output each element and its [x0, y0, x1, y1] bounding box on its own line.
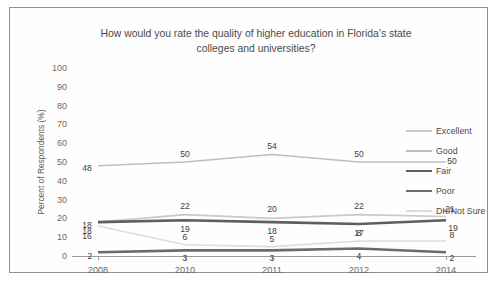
data-label: 2 — [88, 251, 93, 261]
data-label: 48 — [82, 163, 92, 173]
legend-swatch — [406, 150, 432, 152]
series-line-fair — [98, 220, 446, 224]
legend-label: DK/Not Sure — [436, 206, 485, 216]
legend-swatch — [406, 170, 432, 172]
data-label: 3 — [183, 253, 188, 263]
chart-title-line-1: How would you rate the quality of higher… — [58, 26, 454, 41]
chart-title: How would you rate the quality of higher… — [58, 26, 454, 56]
y-axis-tick: 0 — [62, 251, 67, 261]
series-line-good — [98, 154, 446, 165]
data-label: 22 — [354, 201, 364, 211]
x-axis-tickmark — [98, 256, 99, 260]
chart-legend: ExcellentGoodFairPoorDK/Not Sure — [406, 121, 485, 221]
x-axis-tick: 2012 — [349, 265, 369, 275]
legend-item-fair[interactable]: Fair — [406, 161, 485, 181]
y-axis-tick: 20 — [57, 213, 67, 223]
x-axis-tick: 2014 — [436, 265, 456, 275]
data-label: 50 — [180, 149, 190, 159]
legend-item-dk-not-sure[interactable]: DK/Not Sure — [406, 201, 485, 221]
y-axis-label: Percent of Respondents (%) — [34, 68, 48, 256]
data-label: 3 — [270, 253, 275, 263]
y-axis-tick: 50 — [57, 157, 67, 167]
y-axis-tick: 60 — [57, 138, 67, 148]
legend-label: Good — [436, 146, 458, 156]
legend-item-good[interactable]: Good — [406, 141, 485, 161]
legend-swatch — [406, 190, 432, 192]
y-axis-tick: 40 — [57, 176, 67, 186]
x-axis-tickmark — [446, 256, 447, 260]
x-axis-tick: 2011 — [262, 265, 282, 275]
legend-item-excellent[interactable]: Excellent — [406, 121, 485, 141]
chart-title-line-2: colleges and universities? — [58, 41, 454, 56]
data-label: 8 — [450, 230, 455, 240]
x-axis-tick: 2010 — [175, 265, 195, 275]
data-label: 2 — [450, 253, 455, 263]
y-axis-tick: 100 — [52, 63, 67, 73]
data-label: 54 — [267, 141, 277, 151]
y-axis-tick: 70 — [57, 119, 67, 129]
data-label: 50 — [354, 149, 364, 159]
legend-swatch — [406, 130, 432, 132]
data-label: 20 — [267, 204, 277, 214]
legend-label: Excellent — [436, 126, 472, 136]
series-line-poor — [98, 248, 446, 252]
data-label: 6 — [183, 232, 188, 242]
data-label: 16 — [82, 231, 92, 241]
chart-frame: How would you rate the quality of higher… — [9, 7, 488, 273]
y-axis-tick: 30 — [57, 195, 67, 205]
legend-item-poor[interactable]: Poor — [406, 181, 485, 201]
data-label: 4 — [357, 251, 362, 261]
legend-label: Poor — [436, 186, 455, 196]
y-axis-tick: 90 — [57, 82, 67, 92]
y-axis-tick: 80 — [57, 101, 67, 111]
legend-swatch — [406, 210, 432, 212]
data-label: 22 — [180, 201, 190, 211]
data-label: 8 — [357, 228, 362, 238]
x-axis-tick: 2008 — [88, 265, 108, 275]
chart-screenshot: How would you rate the quality of higher… — [0, 0, 498, 282]
data-label: 5 — [270, 234, 275, 244]
legend-label: Fair — [436, 166, 451, 176]
y-axis-tick: 10 — [57, 232, 67, 242]
